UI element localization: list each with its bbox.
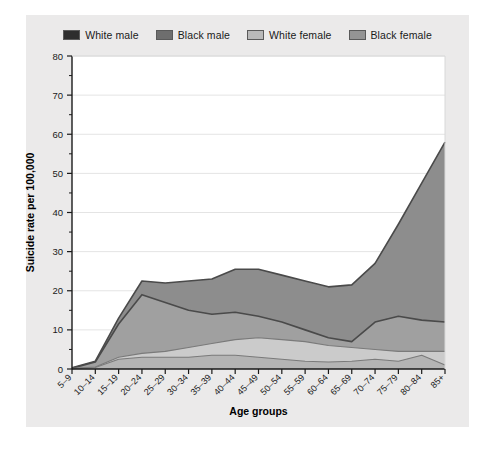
chart-plot: 010203040506070805–910–1415–1920–2425–29… — [0, 0, 481, 450]
x-tick-label: 50–54 — [258, 372, 283, 397]
x-tick-label: 75–79 — [375, 372, 400, 397]
x-tick-label: 85+ — [429, 372, 447, 390]
y-tick-label: 30 — [52, 246, 63, 257]
x-tick-label: 55–59 — [282, 372, 307, 397]
x-tick-label: 80–84 — [398, 372, 423, 397]
x-tick-label: 65–69 — [328, 372, 353, 397]
y-tick-label: 60 — [52, 129, 63, 140]
x-tick-label: 25–29 — [142, 372, 167, 397]
x-tick-label: 60–64 — [305, 372, 330, 397]
x-tick-label: 10–14 — [72, 372, 97, 397]
x-tick-label: 20–24 — [119, 372, 144, 397]
y-tick-label: 50 — [52, 168, 63, 179]
y-tick-label: 20 — [52, 285, 63, 296]
y-tick-label: 80 — [52, 51, 63, 62]
x-tick-label: 35–39 — [189, 372, 214, 397]
x-tick-label: 30–34 — [165, 372, 190, 397]
chart-figure: White male Black male White female Black… — [0, 0, 481, 450]
x-tick-label: 40–44 — [212, 372, 237, 397]
x-tick-label: 70–74 — [352, 372, 377, 397]
y-axis-title: Suicide rate per 100,000 — [24, 153, 36, 273]
y-tick-label: 0 — [58, 364, 63, 375]
x-axis-title: Age groups — [229, 405, 287, 417]
x-tick-label: 15–19 — [95, 372, 120, 397]
y-tick-label: 40 — [52, 207, 63, 218]
y-tick-label: 70 — [52, 90, 63, 101]
y-tick-label: 10 — [52, 324, 63, 335]
x-tick-label: 45–49 — [235, 372, 260, 397]
x-tick-label: 5–9 — [56, 372, 74, 390]
